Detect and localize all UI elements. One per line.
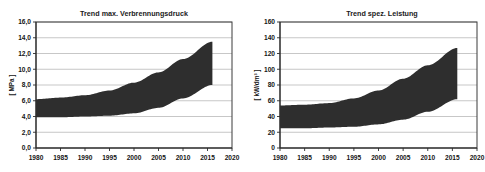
x-tick-label: 1985 [297, 154, 312, 161]
chart-0-ytick-labels: 0,02,04,06,08,010,012,014,016,0 [18, 18, 31, 152]
y-tick-label: 6,0 [22, 97, 31, 105]
chart-panel-spez-leistung: 020406080100120140160 198019851990199520… [242, 0, 484, 172]
x-tick-label: 1990 [322, 154, 337, 161]
y-tick-label: 0 [271, 144, 275, 151]
y-tick-label: 120 [264, 50, 275, 57]
x-tick-label: 1995 [347, 154, 362, 161]
y-tick-label: 140 [264, 34, 275, 41]
x-tick-label: 2000 [371, 154, 386, 161]
y-tick-label: 160 [264, 18, 275, 25]
y-tick-label: 100 [264, 66, 275, 73]
y-axis-unit-label-spez-leistung: [ kW/dm³ ] [253, 70, 261, 101]
y-tick-label: 40 [268, 113, 276, 120]
x-tick-label: 2015 [200, 154, 215, 161]
y-tick-label: 20 [268, 129, 276, 136]
x-tick-label: 1980 [29, 154, 44, 161]
x-tick-label: 2005 [396, 154, 411, 161]
y-tick-label: 12,0 [18, 50, 31, 58]
x-tick-label: 2010 [420, 154, 435, 161]
x-tick-label: 2015 [445, 154, 460, 161]
chart-title-verbrennungsdruck: Trend max. Verbrennungsdruck [80, 9, 188, 18]
y-tick-label: 4,0 [22, 113, 31, 121]
x-tick-label: 2010 [176, 154, 191, 161]
x-tick-label: 1990 [78, 154, 93, 161]
chart-1-xtick-labels: 198019851990199520002005201020152020 [273, 154, 485, 161]
chart-panel-verbrennungsdruck: 0,02,04,06,08,010,012,014,016,0 19801985… [0, 0, 242, 172]
x-tick-label: 2020 [470, 154, 485, 161]
y-tick-label: 2,0 [22, 129, 31, 137]
chart-0-band [36, 42, 212, 118]
y-tick-label: 16,0 [18, 18, 31, 26]
y-axis-unit-label-verbrennungsdruck: [ MPa ] [8, 75, 16, 96]
y-tick-label: 14,0 [18, 34, 31, 42]
y-tick-label: 8,0 [22, 81, 31, 89]
y-tick-label: 80 [268, 81, 276, 88]
x-tick-label: 2005 [151, 154, 166, 161]
chart-1-ytick-labels: 020406080100120140160 [264, 18, 275, 151]
x-tick-label: 1995 [102, 154, 117, 161]
chart-verbrennungsdruck: 0,02,04,06,08,010,012,014,016,0 19801985… [0, 0, 242, 172]
x-tick-label: 2020 [225, 154, 240, 161]
y-tick-label: 0,0 [22, 144, 31, 152]
x-tick-label: 2000 [127, 154, 142, 161]
chart-0-xtick-labels: 198019851990199520002005201020152020 [29, 154, 240, 161]
chart-spez-leistung: 020406080100120140160 198019851990199520… [242, 0, 485, 172]
y-tick-label: 10,0 [18, 66, 31, 74]
y-tick-label: 60 [268, 97, 276, 104]
chart-title-spez-leistung: Trend spez. Leistung [346, 9, 418, 18]
trend-charts-figure: 0,02,04,06,08,010,012,014,016,0 19801985… [0, 0, 485, 172]
x-tick-label: 1980 [273, 154, 288, 161]
x-tick-label: 1985 [53, 154, 68, 161]
